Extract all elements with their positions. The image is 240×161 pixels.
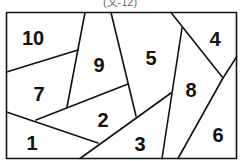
divider-10-7: [7, 50, 79, 72]
region-label-5: 5: [145, 47, 156, 69]
partition-diagram: 10 9 5 4 7 8 2 1 3 6: [0, 0, 240, 161]
divider-2-3: [80, 93, 171, 159]
region-label-2: 2: [97, 109, 108, 131]
divider-1-2: [7, 112, 99, 143]
region-label-7: 7: [33, 83, 44, 105]
region-labels: 10 9 5 4 7 8 2 1 3 6: [22, 27, 224, 155]
region-label-3: 3: [134, 133, 145, 155]
divider-9-5: [111, 13, 136, 117]
divider-4-6: [223, 57, 237, 78]
region-label-8: 8: [185, 79, 196, 101]
divider-9-left: [67, 13, 85, 108]
divider-7-2: [36, 84, 128, 120]
region-label-9: 9: [93, 54, 104, 76]
divider-5-8: [162, 28, 182, 159]
region-label-4: 4: [209, 28, 221, 50]
region-label-10: 10: [22, 27, 44, 49]
region-label-1: 1: [26, 132, 37, 154]
region-label-6: 6: [212, 124, 223, 146]
